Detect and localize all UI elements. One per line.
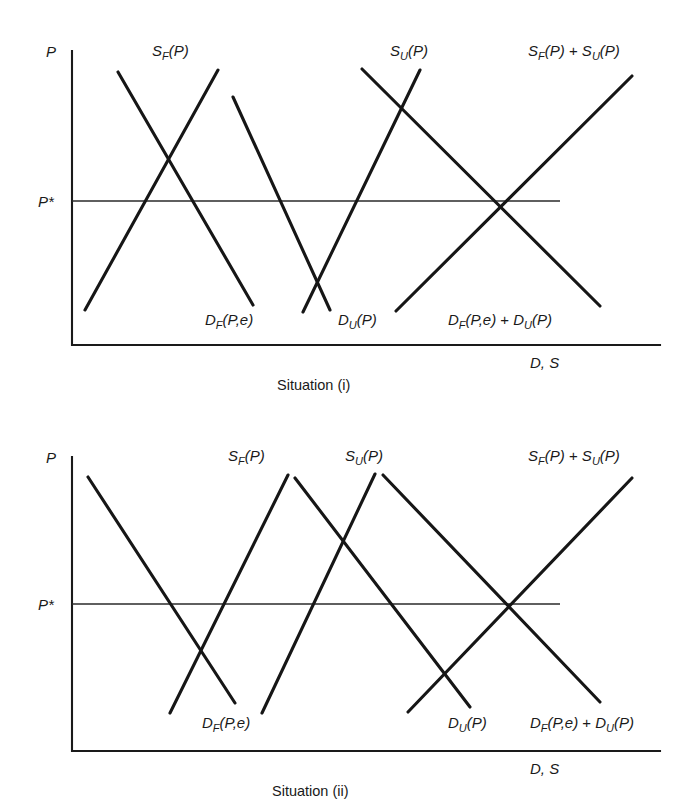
curve-supply-sum-situation-ii xyxy=(408,478,632,712)
label-supply-sum-situation-i: SF(P) + SU(P) xyxy=(528,42,620,62)
chart-panel-situation-i: P P* D, S SF(P) SU(P) SF(P) + SU(P) DF(P… xyxy=(0,0,690,406)
x-axis-label-situation-i: D, S xyxy=(530,354,559,371)
label-supply-f-situation-i: SF(P) xyxy=(152,42,189,62)
label-demand-sum-situation-i: DF(P,e) + DU(P) xyxy=(448,311,552,331)
plot-svg-situation-i: P P* D, S SF(P) SU(P) SF(P) + SU(P) DF(P… xyxy=(0,0,690,406)
caption-situation-i: Situation (i) xyxy=(277,377,350,393)
price-star-label-situation-ii: P* xyxy=(38,596,55,613)
label-supply-u-situation-ii: SU(P) xyxy=(345,447,383,467)
label-demand-u-situation-ii: DU(P) xyxy=(448,714,487,734)
label-demand-f-situation-i: DF(P,e) xyxy=(205,311,253,331)
plot-svg-situation-ii: P P* D, S SF(P) SU(P) SF(P) + SU(P) DF(P… xyxy=(0,406,690,812)
y-axis-label-situation-i: P xyxy=(46,43,56,60)
y-axis-label-situation-ii: P xyxy=(46,449,56,466)
label-demand-f-situation-ii: DF(P,e) xyxy=(202,714,250,734)
axes-situation-i xyxy=(72,51,660,345)
curve-supply-f-situation-ii xyxy=(170,475,288,713)
price-star-label-situation-i: P* xyxy=(38,193,55,210)
price-star-base: P* xyxy=(38,193,55,210)
curve-supply-u-situation-i xyxy=(303,70,420,312)
label-demand-u-situation-i: DU(P) xyxy=(338,311,377,331)
label-demand-sum-situation-ii: DF(P,e) + DU(P) xyxy=(530,714,634,734)
curve-supply-f-situation-i xyxy=(85,70,218,310)
curve-demand-sum-situation-i xyxy=(362,69,600,306)
x-axis-label-situation-ii: D, S xyxy=(530,760,559,777)
curve-demand-f-situation-i xyxy=(118,72,253,305)
label-supply-f-situation-ii: SF(P) xyxy=(228,447,265,467)
label-supply-u-situation-i: SU(P) xyxy=(390,42,428,62)
chart-panel-situation-ii: P P* D, S SF(P) SU(P) SF(P) + SU(P) DF(P… xyxy=(0,406,690,812)
price-star-base-ii: P* xyxy=(38,596,55,613)
curve-demand-u-situation-i xyxy=(233,97,330,310)
curve-supply-sum-situation-i xyxy=(396,76,632,311)
curve-demand-sum-situation-ii xyxy=(383,475,600,702)
curve-demand-f-situation-ii xyxy=(88,477,235,703)
label-supply-sum-situation-ii: SF(P) + SU(P) xyxy=(528,447,620,467)
caption-situation-ii: Situation (ii) xyxy=(272,783,349,799)
figure-page: P P* D, S SF(P) SU(P) SF(P) + SU(P) DF(P… xyxy=(0,0,690,812)
